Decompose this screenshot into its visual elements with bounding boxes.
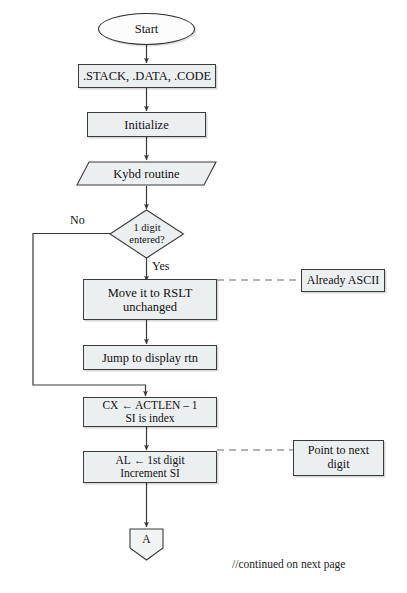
- node-cx-actlen-line2: SI is index: [125, 412, 174, 425]
- node-cx-actlen-line1: CX←ACTLEN – 1: [102, 399, 197, 412]
- node-al-first-digit-line2: Increment SI: [120, 467, 180, 480]
- note-point-to-next-digit-line1: Point to next: [308, 444, 369, 458]
- flowchart-canvas: Start .STACK, .DATA, .CODE Initialize Ky…: [0, 0, 407, 593]
- node-cx-actlen[interactable]: CX←ACTLEN – 1 SI is index: [83, 397, 217, 427]
- note-already-ascii[interactable]: Already ASCII: [301, 269, 385, 292]
- note-already-ascii-label: Already ASCII: [307, 274, 379, 288]
- left-arrow-icon: ←: [118, 399, 135, 412]
- note-point-to-next-digit-line2: digit: [327, 458, 349, 472]
- footnote-continued: //continued on next page: [232, 558, 345, 570]
- node-al-first-digit-line1: AL←1st digit: [115, 454, 184, 467]
- node-jump-to-display-label: Jump to display rtn: [102, 351, 198, 365]
- node-decision-line1: 1 digit: [133, 222, 160, 234]
- node-decision-line2: entered?: [129, 234, 165, 246]
- node-al-expression: 1st digit: [147, 454, 184, 466]
- node-cx-actlen-expression: ACTLEN – 1: [135, 399, 198, 411]
- node-connector-a[interactable]: A: [129, 528, 164, 561]
- node-move-to-rslt-line2: unchanged: [123, 300, 177, 314]
- node-al-register: AL: [115, 454, 130, 466]
- node-initialize-label: Initialize: [124, 118, 168, 132]
- node-initialize[interactable]: Initialize: [87, 112, 206, 137]
- node-segment-directives-label: .STACK, .DATA, .CODE: [83, 69, 211, 83]
- node-connector-a-label: A: [142, 533, 150, 546]
- node-al-first-digit[interactable]: AL←1st digit Increment SI: [83, 451, 217, 483]
- node-move-to-rslt-line1: Move it to RSLT: [108, 286, 193, 300]
- node-move-to-rslt[interactable]: Move it to RSLT unchanged: [83, 279, 217, 320]
- node-decision-one-digit[interactable]: 1 digit entered?: [109, 209, 185, 259]
- note-point-to-next-digit[interactable]: Point to next digit: [293, 440, 384, 476]
- node-segment-directives[interactable]: .STACK, .DATA, .CODE: [78, 64, 216, 88]
- node-start-label: Start: [135, 22, 159, 36]
- node-kybd-routine[interactable]: Kybd routine: [76, 161, 217, 186]
- node-kybd-routine-label: Kybd routine: [113, 167, 179, 181]
- edge-label-no: No: [70, 213, 85, 228]
- edge-label-yes: Yes: [152, 259, 169, 274]
- left-arrow-icon: ←: [131, 454, 148, 467]
- node-start[interactable]: Start: [98, 13, 195, 45]
- node-cx-actlen-register: CX: [102, 399, 118, 411]
- node-jump-to-display[interactable]: Jump to display rtn: [83, 345, 217, 370]
